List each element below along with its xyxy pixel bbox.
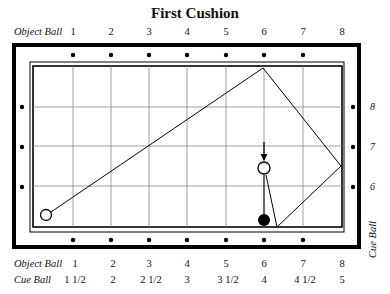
bottom-cue-tick-5: 3 1/2 [217, 274, 238, 285]
bottom-object-label: Object Ball [14, 258, 62, 269]
bottom-object-tick-5: 5 [223, 258, 228, 269]
bottom-cue-tick-2: 2 [110, 274, 115, 285]
white-ball [258, 162, 270, 174]
diamond-markers [20, 53, 355, 242]
ball-paths [51, 68, 341, 227]
right-axis-label: Cue Ball [367, 221, 378, 258]
bottom-object-tick-1: 1 [72, 258, 77, 269]
bottom-cue-tick-7: 4 1/2 [294, 274, 315, 285]
bottom-cue-tick-6: 4 [261, 274, 266, 285]
playing-surface [33, 66, 342, 227]
grid-lines [33, 66, 342, 227]
object-ball-start [41, 210, 52, 221]
bottom-object-tick-8: 8 [339, 258, 344, 269]
bottom-object-tick-6: 6 [261, 258, 266, 269]
object-ball-path [51, 68, 341, 227]
right-tick-8: 8 [370, 101, 375, 112]
bottom-cue-tick-8: 5 [339, 274, 344, 285]
bottom-object-tick-7: 7 [300, 258, 305, 269]
right-tick-6: 6 [370, 181, 375, 192]
bottom-object-tick-3: 3 [146, 258, 151, 269]
pool-table-diagram [0, 0, 390, 294]
black-ball [258, 214, 270, 226]
bottom-object-tick-4: 4 [184, 258, 189, 269]
bottom-object-tick-2: 2 [110, 258, 115, 269]
right-tick-7: 7 [370, 141, 375, 152]
aim-arrow-head [261, 154, 268, 161]
bottom-cue-tick-1: 1 1/2 [64, 274, 85, 285]
bottom-cue-label: Cue Ball [14, 274, 51, 285]
bottom-cue-tick-4: 3 [184, 274, 189, 285]
bottom-cue-tick-3: 2 1/2 [140, 274, 161, 285]
